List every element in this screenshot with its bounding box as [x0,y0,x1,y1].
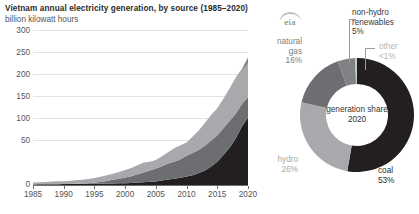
callout-coal-value: 53% [378,176,394,186]
donut-callout-coal: coal 53% [378,166,394,185]
y-axis-label-100: 100 [2,114,30,123]
y-axis-label-0: 0 [2,180,30,189]
donut-callout-non-hydro-renewables: non-hydro renewables 5% [352,8,394,37]
donut-slice-hydro [300,102,352,171]
x-axis-line [33,185,248,187]
series-label-hydro-value: 26% [232,165,298,175]
donut-svg [297,55,417,175]
x-tick-1995 [94,186,95,189]
y-axis-label-200: 200 [2,70,30,79]
eia-logo-icon: eia [277,11,303,31]
y-axis-label-250: 250 [2,48,30,57]
x-tick-1985 [33,186,34,189]
callout-renewables-value: 5% [352,27,394,37]
donut-callout-other: other <1% [379,42,398,61]
x-tick-2000 [125,186,126,189]
series-label-natural-gas-value: 16% [236,56,302,66]
x-axis-label-2020: 2020 [231,190,265,199]
page-title: Vietnam annual electricity generation, b… [5,4,248,13]
series-label-natural-gas: natural gas 16% [236,37,302,66]
x-axis-label-2010: 2010 [170,190,204,199]
y-axis-label-300: 300 [2,26,30,35]
leader-line-other [365,48,366,70]
x-tick-2015 [217,186,218,189]
area-series-group [33,30,248,185]
eia-logo-text: eia [277,17,303,27]
x-tick-2005 [156,186,157,189]
donut-slice-coal [347,58,414,172]
x-tick-1990 [64,186,65,189]
series-label-natural-gas-line2: gas [236,47,302,57]
callout-renewables-line2: renewables [352,18,394,28]
chart-figure: Vietnam annual electricity generation, b… [0,0,419,214]
callout-other-value: <1% [379,52,398,62]
y-axis-label-50: 50 [2,136,30,145]
stacked-area-plot [33,30,248,186]
x-axis-label-2005: 2005 [139,190,173,199]
generation-share-donut: generation share 2020 [297,55,417,175]
callout-renewables-line1: non-hydro [352,8,394,18]
leader-line-other-elbow [365,48,375,49]
series-label-hydro: hydro 26% [232,155,298,174]
callout-other-line1: other [379,42,398,52]
leader-line-renewables [349,19,350,63]
callout-coal-line1: coal [378,166,394,176]
chart-subtitle: billion kilowatt hours [5,15,78,24]
series-label-natural-gas-line1: natural [236,37,302,47]
x-tick-2020 [248,186,249,189]
x-tick-2010 [187,186,188,189]
series-label-hydro-line1: hydro [232,155,298,165]
donut-slice-natural-gas [301,61,346,108]
x-axis-label-2000: 2000 [108,190,142,199]
x-axis-label-1990: 1990 [47,190,81,199]
x-axis-label-1995: 1995 [77,190,111,199]
y-axis-label-150: 150 [2,92,30,101]
x-axis-label-2015: 2015 [200,190,234,199]
x-axis-label-1985: 1985 [16,190,50,199]
